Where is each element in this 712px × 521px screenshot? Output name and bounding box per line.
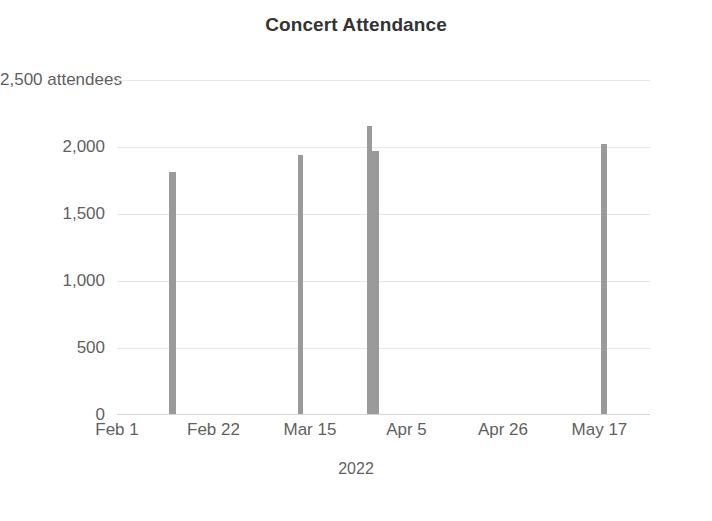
x-axis-tick-label: Apr 26 — [478, 420, 528, 440]
gridline — [117, 348, 650, 349]
y-axis-tick-label: 1,000 — [0, 271, 105, 291]
y-axis-tick-label: 2,500 attendees — [0, 70, 105, 90]
plot-area — [117, 80, 650, 415]
x-axis-tick-label: Feb 22 — [187, 420, 240, 440]
gridline — [117, 281, 650, 282]
bar[interactable] — [370, 151, 379, 415]
chart-title: Concert Attendance — [0, 14, 712, 36]
bar[interactable] — [169, 172, 176, 415]
x-axis-title: 2022 — [0, 460, 712, 478]
x-axis-tick-label: Feb 1 — [95, 420, 138, 440]
y-axis-tick-label: 2,000 — [0, 137, 105, 157]
x-axis-line — [117, 414, 650, 415]
x-axis-tick-label: May 17 — [572, 420, 628, 440]
y-axis-tick-label: 1,500 — [0, 204, 105, 224]
bar[interactable] — [601, 144, 607, 415]
gridline — [117, 80, 650, 81]
gridline — [117, 147, 650, 148]
x-axis-tick-label: Apr 5 — [386, 420, 427, 440]
gridline — [117, 214, 650, 215]
x-axis-labels: Feb 1Feb 22Mar 15Apr 5Apr 26May 17 — [0, 420, 712, 446]
bar[interactable] — [298, 155, 303, 415]
chart-container: Concert Attendance 05001,0001,5002,0002,… — [0, 0, 712, 521]
y-axis-tick-label: 500 — [0, 338, 105, 358]
x-axis-tick-label: Mar 15 — [284, 420, 337, 440]
